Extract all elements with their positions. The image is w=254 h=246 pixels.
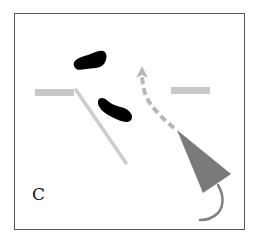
panel-label: C — [32, 186, 45, 203]
upper-black-blob — [74, 51, 107, 70]
lower-black-blob — [98, 98, 132, 122]
dashed-arrow-shaft — [142, 72, 174, 128]
left-gray-bar — [35, 89, 74, 96]
gray-cone — [177, 130, 231, 193]
diagram-canvas — [0, 0, 254, 246]
arrow-head-icon — [136, 66, 148, 78]
right-gray-bar — [171, 87, 210, 94]
